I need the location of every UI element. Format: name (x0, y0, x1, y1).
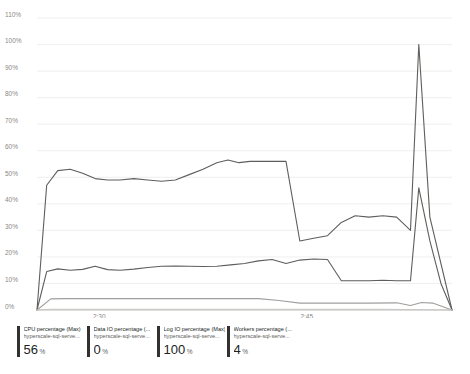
series-line (37, 188, 452, 310)
y-axis-tick-label: 100% (5, 37, 22, 44)
y-axis-tick-label: 50% (5, 170, 18, 177)
legend-value: 0 (94, 343, 101, 357)
legend-unit: % (242, 348, 248, 355)
legend-value-row: 0 % (94, 343, 151, 357)
legend-value: 4 (234, 343, 241, 357)
legend-value: 100 (164, 343, 186, 357)
legend-value-row: 4 % (234, 343, 292, 357)
legend-text-block: Workers percentage (... hyperscale-sql-s… (234, 326, 292, 357)
y-axis-tick-labels: 0%10%20%30%40%50%60%70%80%90%100%110% (5, 11, 22, 310)
legend-item[interactable]: CPU percentage (Max) hyperscale-sql-serv… (17, 326, 85, 357)
legend-resource-name: hyperscale-sql-serve... (94, 333, 151, 340)
legend-metric-name: Data IO percentage (... (94, 326, 151, 333)
legend-text-block: Data IO percentage (... hyperscale-sql-s… (94, 326, 151, 357)
legend-value-row: 56 % (24, 343, 81, 357)
metrics-chart: 0%10%20%30%40%50%60%70%80%90%100%110% 2:… (0, 0, 470, 374)
legend-item[interactable]: Data IO percentage (... hyperscale-sql-s… (87, 326, 155, 357)
y-axis-tick-label: 30% (5, 223, 18, 230)
legend-color-swatch (227, 326, 230, 357)
legend-unit: % (102, 348, 108, 355)
plot-area[interactable]: 0%10%20%30%40%50%60%70%80%90%100%110% 2:… (0, 0, 470, 318)
legend-value: 56 (24, 343, 38, 357)
legend-resource-name: hyperscale-sql-serve... (164, 333, 226, 340)
y-axis-tick-label: 10% (5, 276, 18, 283)
x-axis-tick-label: 2:30 (93, 313, 106, 318)
chart-legend: CPU percentage (Max) hyperscale-sql-serv… (17, 326, 297, 357)
legend-metric-name: Workers percentage (... (234, 326, 292, 333)
legend-color-swatch (87, 326, 90, 357)
legend-color-swatch (17, 326, 20, 357)
line-chart-svg[interactable]: 0%10%20%30%40%50%60%70%80%90%100%110% 2:… (0, 0, 470, 318)
legend-unit: % (187, 348, 193, 355)
legend-text-block: CPU percentage (Max) hyperscale-sql-serv… (24, 326, 81, 357)
x-axis-tick-label: 2:45 (300, 313, 313, 318)
y-axis-tick-label: 90% (5, 64, 18, 71)
legend-metric-name: CPU percentage (Max) (24, 326, 81, 333)
legend-resource-name: hyperscale-sql-serve... (234, 333, 292, 340)
y-axis-tick-label: 80% (5, 90, 18, 97)
legend-text-block: Log IO percentage (Max) hyperscale-sql-s… (164, 326, 226, 357)
y-axis-tick-label: 110% (5, 11, 21, 18)
gridlines (37, 18, 452, 310)
y-axis-tick-label: 40% (5, 196, 18, 203)
x-axis-tick-labels: 2:302:45 (93, 313, 314, 318)
legend-item[interactable]: Workers percentage (... hyperscale-sql-s… (227, 326, 295, 357)
legend-color-swatch (157, 326, 160, 357)
y-axis-tick-label: 70% (5, 117, 18, 124)
y-axis-tick-label: 60% (5, 143, 18, 150)
legend-unit: % (39, 348, 45, 355)
legend-value-row: 100 % (164, 343, 226, 357)
legend-metric-name: Log IO percentage (Max) (164, 326, 226, 333)
series-line (37, 299, 452, 310)
legend-resource-name: hyperscale-sql-serve... (24, 333, 81, 340)
y-axis-tick-label: 20% (5, 249, 18, 256)
y-axis-tick-label: 0% (5, 303, 15, 310)
legend-item[interactable]: Log IO percentage (Max) hyperscale-sql-s… (157, 326, 225, 357)
